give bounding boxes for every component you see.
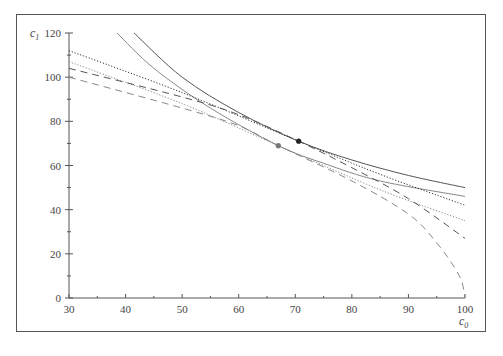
frontier-dashed-2 (69, 77, 465, 298)
y-tick-label: 100 (45, 71, 62, 83)
series-group (69, 33, 465, 298)
x-axis-title: c0 (459, 314, 468, 330)
indifference-curve-1 (134, 33, 465, 188)
y-tick-label: 40 (50, 204, 62, 216)
x-tick-label: 60 (233, 303, 245, 315)
x-tick-label: 80 (346, 303, 358, 315)
y-tick-label: 120 (45, 27, 62, 39)
x-tick-label: 30 (64, 303, 76, 315)
tangency-point-dark (296, 139, 301, 144)
y-tick-label: 60 (50, 160, 62, 172)
x-tick-label: 90 (403, 303, 415, 315)
budget-line-dotted-1 (69, 51, 465, 206)
markers-group (276, 139, 302, 149)
chart-plot: 30405060708090100020406080100120 c1 c0 (0, 0, 503, 356)
y-tick-label: 80 (50, 115, 62, 127)
x-tick-label: 40 (120, 303, 132, 315)
axes: 30405060708090100020406080100120 (45, 27, 474, 315)
x-tick-label: 50 (177, 303, 189, 315)
indifference-curve-2 (117, 33, 465, 196)
x-tick-label: 70 (290, 303, 302, 315)
y-tick-label: 20 (50, 248, 62, 260)
tangency-point-gray (276, 143, 281, 148)
y-axis-title: c1 (30, 26, 39, 42)
y-tick-label: 0 (56, 292, 62, 304)
frontier-dashed-1 (69, 68, 465, 238)
